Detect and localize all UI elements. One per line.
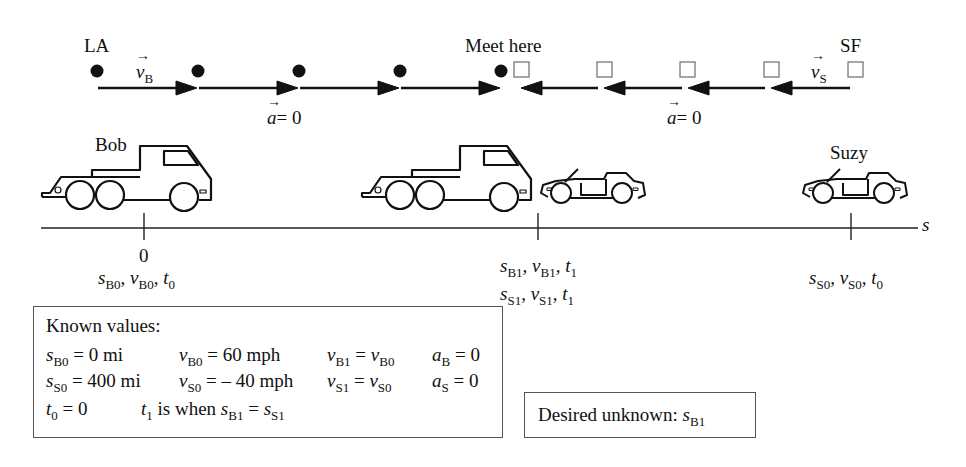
suzy-velocity-arrows: [521, 81, 850, 95]
label: Desired unknown:: [538, 404, 678, 425]
known-aB: aB = 0: [432, 345, 480, 364]
known-vB1: vB1 = vB0: [327, 345, 394, 364]
equals-zero: = 0: [277, 107, 302, 128]
subscript: S0: [848, 277, 862, 292]
bob-acceleration-label: a= 0: [267, 108, 301, 127]
suzy-label: Suzy: [830, 143, 868, 162]
equals: =: [354, 370, 365, 391]
suzy-car-start-icon: [803, 169, 907, 203]
value: = 0 mi: [73, 344, 123, 365]
subscript: S1: [539, 293, 553, 308]
equals: =: [355, 344, 366, 365]
known-vB0: vB0 = 60 mph: [179, 345, 280, 364]
known-aS: aS = 0: [432, 371, 478, 390]
subscript: B: [144, 71, 153, 86]
suzy-acceleration-label: a= 0: [667, 108, 701, 127]
subscript: S: [819, 71, 826, 86]
suzy-car-meet-icon: [541, 169, 645, 203]
subscript: 1: [568, 293, 575, 308]
equals: =: [248, 398, 259, 419]
axis-label-s: s: [922, 215, 929, 234]
known-sS0: sS0 = 400 mi: [46, 371, 141, 390]
subscript: B1: [690, 414, 705, 429]
tick-suzy-start-vars: sS0, vS0, t0: [809, 268, 883, 287]
sf-label: SF: [840, 36, 861, 55]
tick-bob-start-vars: sB0, vB0, t0: [98, 268, 175, 287]
vector-a: a: [667, 108, 677, 127]
tick-zero-label: 0: [139, 246, 149, 265]
known-t0: t0 = 0: [46, 399, 88, 418]
known-values-title: Known values:: [46, 316, 161, 335]
bob-label: Bob: [95, 135, 127, 154]
bob-velocity-label: vB: [136, 62, 153, 81]
equals-zero: = 0: [677, 107, 702, 128]
value: = 0: [455, 344, 480, 365]
value: = 400 mi: [72, 370, 141, 391]
var: v: [532, 255, 540, 276]
known-values-box: Known values: sB0 = 0 mi vB0 = 60 mph vB…: [33, 306, 503, 438]
known-sB0: sB0 = 0 mi: [46, 345, 123, 364]
desired-unknown-text: Desired unknown: sB1: [538, 405, 705, 424]
subscript: S0: [816, 277, 830, 292]
text: is when: [158, 398, 217, 419]
known-t1-condition: t1 is when sB1 = sS1: [141, 399, 285, 418]
position-axis: [41, 213, 918, 240]
la-label: LA: [84, 36, 109, 55]
var: v: [130, 267, 138, 288]
subscript: 0: [877, 277, 884, 292]
bob-velocity-arrows: [98, 81, 500, 95]
var: v: [840, 267, 848, 288]
value: = – 40 mph: [206, 370, 293, 391]
value: = 0: [63, 398, 88, 419]
vector-a: a: [267, 108, 277, 127]
symbol: s: [683, 404, 690, 425]
tick-meet-vars-bob: sB1, vB1, t1: [500, 256, 577, 275]
subscript: B0: [105, 277, 120, 292]
subscript: B1: [541, 265, 556, 280]
suzy-velocity-label: vS: [811, 62, 827, 81]
known-vS1: vS1 = vS0: [327, 371, 392, 390]
known-vS0: vS0 = – 40 mph: [179, 371, 293, 390]
vector-v: v: [136, 62, 144, 81]
subscript: 1: [570, 265, 577, 280]
subscript: B1: [507, 265, 522, 280]
var: v: [531, 283, 539, 304]
tick-meet-vars-suzy: sS1, vS1, t1: [500, 284, 574, 303]
value: = 0: [453, 370, 478, 391]
subscript: B0: [139, 277, 154, 292]
subscript: 0: [168, 277, 175, 292]
subscript: S1: [507, 293, 521, 308]
desired-unknown-box: Desired unknown: sB1: [524, 392, 756, 438]
bob-truck-start-icon: [42, 146, 211, 211]
vector-v: v: [811, 62, 819, 81]
bob-truck-meet-icon: [362, 146, 531, 211]
value: = 60 mph: [207, 344, 280, 365]
meet-here-label: Meet here: [465, 36, 541, 55]
